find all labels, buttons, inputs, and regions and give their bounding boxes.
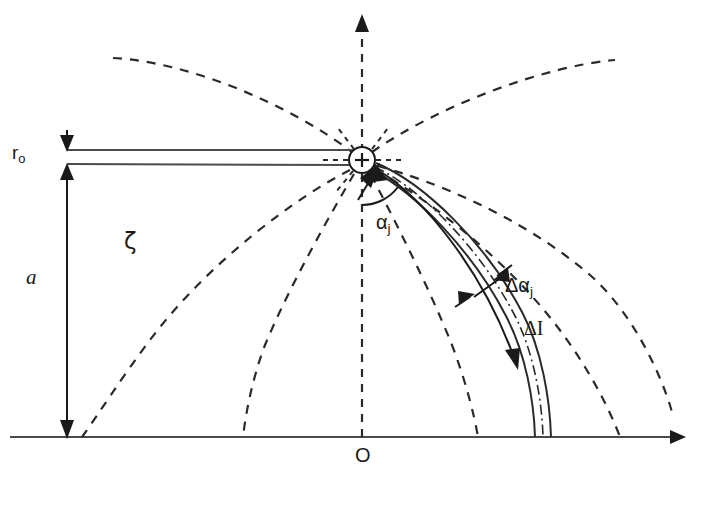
delta-I-arrowhead-end	[505, 348, 520, 370]
horizontal-axis-arrowhead	[670, 430, 686, 444]
label-r0: ro	[12, 143, 26, 166]
diagram-svg	[0, 0, 706, 512]
delta-I-arrow-shaft	[381, 172, 512, 352]
delta-I-group	[373, 162, 520, 370]
vertical-axis-arrowhead	[355, 14, 369, 32]
label-alpha-j-subscript: j	[388, 221, 391, 236]
dashed-curve-upper-left	[113, 58, 352, 152]
label-zeta: ζ	[124, 230, 137, 253]
label-delta-I: ΔI	[524, 318, 544, 338]
dashed-curve-family	[82, 58, 672, 437]
label-alpha-j: αj	[376, 212, 391, 236]
figure-canvas: ro a ζ αj Δαj ΔI O	[0, 0, 706, 512]
label-delta-alpha-j: Δαj	[505, 275, 533, 299]
label-origin: O	[355, 445, 371, 465]
dashed-arc-left-inner	[243, 174, 354, 437]
label-delta-alpha-j-base: Δα	[505, 274, 530, 296]
dashed-arc-right-outer	[376, 170, 620, 437]
label-r0-subscript: o	[18, 151, 25, 166]
r0-lower-reference-line	[67, 164, 352, 165]
a-dimension-group	[60, 168, 74, 439]
dashed-curve-upper-right	[372, 60, 615, 152]
label-alpha-j-base: α	[376, 211, 388, 233]
delta-alpha-group	[455, 265, 512, 307]
label-delta-alpha-j-subscript: j	[530, 284, 533, 299]
dashed-arc-left-outer	[82, 170, 350, 437]
alpha-angle-arc	[362, 187, 398, 205]
r0-dimension-group	[60, 130, 356, 180]
delta-alpha-arrowhead-lower	[458, 291, 475, 305]
band-inner-edge	[374, 171, 535, 437]
spoke-up-right	[372, 128, 388, 149]
label-a: a	[26, 267, 37, 288]
axes-group	[10, 14, 686, 444]
point-source-group	[349, 147, 375, 173]
spoke-up-left	[338, 128, 354, 149]
